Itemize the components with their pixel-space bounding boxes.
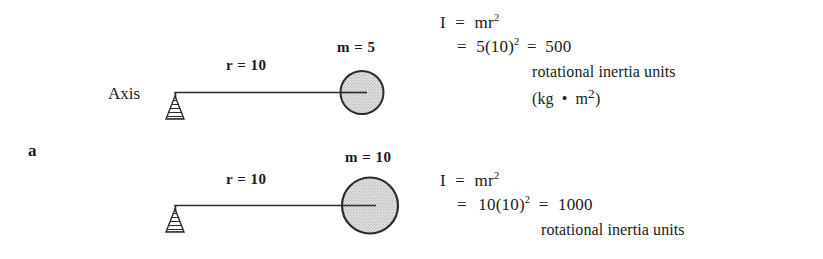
equation-line-1-bottom: I = mr2 <box>440 172 685 189</box>
eq-left-value-top: 5(10) <box>476 37 514 56</box>
mass-circle-bottom <box>342 178 398 234</box>
equation-block-bottom: I = mr2 = 10(10)2 = 1000 rotational iner… <box>440 172 685 238</box>
units-dot-icon-top: • <box>562 90 568 107</box>
pivot-hatching-bottom <box>163 214 187 233</box>
panel-label-a: a <box>28 142 37 159</box>
eq-result-top: 500 <box>545 37 571 56</box>
units-paren-close-top: ) <box>595 90 600 107</box>
radius-label-bottom: r = 10 <box>226 172 266 187</box>
eq-left-value-bottom: 10(10) <box>478 195 525 214</box>
eq-equals-top-1: = <box>455 13 465 32</box>
eq-expr-mr-top: mr <box>475 13 494 32</box>
equation-line-2-bottom: = 10(10)2 = 1000 <box>457 196 685 213</box>
eq-equals-bottom-2: = <box>457 195 467 214</box>
eq-symbol-I-top: I <box>440 13 446 32</box>
diagram-bottom-group <box>163 178 398 234</box>
pivot-triangle-top <box>166 96 184 119</box>
equation-line-2-top: = 5(10)2 = 500 <box>457 38 676 55</box>
eq-exp-bottom-1: 2 <box>494 170 499 181</box>
eq-exp-bottom-2: 2 <box>525 194 530 205</box>
eq-equals-top-3: = <box>527 37 537 56</box>
diagram-top-group <box>163 71 384 119</box>
equation-block-top: I = mr2 = 5(10)2 = 500 rotational inerti… <box>440 14 676 107</box>
units-text-top: rotational inertia units <box>532 64 676 80</box>
units-text-bottom: rotational inertia units <box>541 222 685 238</box>
units-paren-open-top: (kg <box>532 90 554 107</box>
eq-equals-top-2: = <box>457 37 467 56</box>
units-meter-exp-top: 2 <box>588 86 595 101</box>
mass-circle-top <box>341 71 384 114</box>
rotational-inertia-figure: a Axis r = 10 m = 5 r = 10 m = 10 I = mr… <box>0 0 823 259</box>
equation-line-1-top: I = mr2 <box>440 14 676 31</box>
pivot-triangle-bottom <box>166 209 184 232</box>
units-parenthetical-top: (kg • m2) <box>532 87 676 107</box>
eq-exp-top-2: 2 <box>514 36 519 47</box>
eq-equals-bottom-1: = <box>455 171 465 190</box>
axis-label-top: Axis <box>108 85 140 102</box>
eq-result-bottom: 1000 <box>558 195 593 214</box>
eq-exp-top-1: 2 <box>494 12 499 23</box>
radius-label-top: r = 10 <box>226 58 266 73</box>
eq-expr-mr-bottom: mr <box>475 171 494 190</box>
eq-symbol-I-bottom: I <box>440 171 446 190</box>
mass-label-top: m = 5 <box>337 40 376 55</box>
mass-label-bottom: m = 10 <box>345 150 392 165</box>
eq-equals-bottom-3: = <box>539 195 549 214</box>
pivot-hatching-top <box>163 101 187 120</box>
units-meter-top: m <box>576 90 589 107</box>
diagram-vector-layer <box>0 0 823 259</box>
